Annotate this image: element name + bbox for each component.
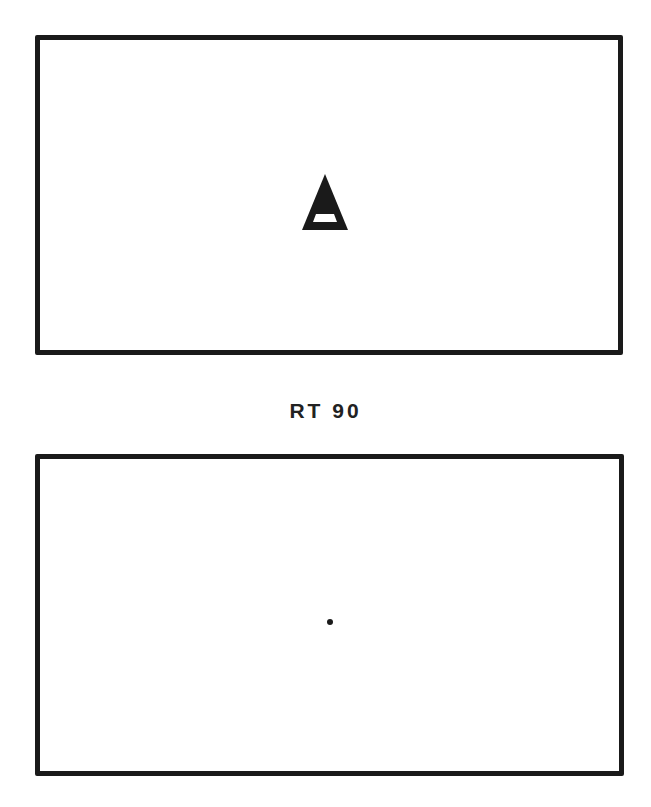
screen-frame-after [35, 454, 624, 776]
triangle-turtle-icon [302, 174, 348, 230]
center-dot-icon [327, 619, 333, 625]
command-caption: RT 90 [0, 399, 651, 423]
screen-frame-before [35, 35, 623, 355]
